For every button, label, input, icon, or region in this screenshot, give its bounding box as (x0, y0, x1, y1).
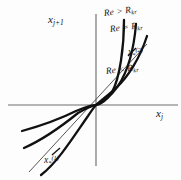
y-axis-label-sub: j+1 (53, 18, 64, 27)
regime-critical-text: Re = R (109, 21, 137, 34)
regime-subcritical-subscript: kr (133, 66, 139, 74)
fixed-point-2-superscript: (2) (135, 46, 143, 53)
fixed-point-1-superscript: (1) (51, 154, 59, 161)
y-axis-label: xj+1 (48, 14, 64, 27)
label-fixed-point-1: x*(1) (44, 155, 59, 167)
x-axis-label: xj (156, 108, 163, 121)
label-fixed-point-2: x*(2) (128, 47, 143, 59)
fixed-point-2-star: * (132, 52, 135, 58)
fixed-point-1-star: * (48, 160, 51, 166)
regime-supercritical-text: Re > R (103, 5, 131, 18)
figure-container: xj+1 xj Re > Rkr Re = Rkr Re < Rkr x*(2)… (0, 0, 181, 180)
x-axis-label-sub: j (161, 112, 163, 121)
regime-supercritical-subscript: kr (131, 8, 137, 16)
regime-critical-subscript: kr (137, 24, 143, 32)
regime-subcritical-text: Re < R (105, 63, 133, 76)
plot-canvas (0, 0, 181, 180)
